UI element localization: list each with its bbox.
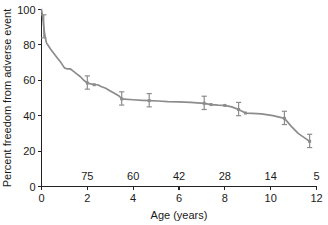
at-risk-counts-row: 75604228145 [81,170,319,182]
at-risk-count-4: 60 [127,170,139,182]
data-series-layer [42,10,310,142]
data-marker-4 [203,102,206,105]
data-marker-3 [148,99,151,102]
at-risk-count-10: 14 [265,170,277,182]
data-markers-layer [86,81,311,142]
x-axis-tick-labels: 024681012 [38,192,322,204]
x-tick-label-8: 8 [222,192,228,204]
y-axis-tick-labels: 020406080100 [17,4,35,193]
y-tick-label-80: 80 [23,39,35,51]
y-tick-label-0: 0 [29,181,35,193]
y-tick-label-60: 60 [23,74,35,86]
x-axis-title: Age (years) [151,209,208,221]
y-axis-title: Percent freedom from adverse event [1,9,13,188]
x-tick-label-12: 12 [310,192,322,204]
data-marker-2 [120,97,123,100]
data-marker-1 [93,83,96,86]
x-tick-label-4: 4 [130,192,136,204]
survival-curve-plot: 020406080100 024681012 75604228145 Age (… [0,0,328,225]
at-risk-count-2: 75 [81,170,93,182]
chart-figure: 020406080100 024681012 75604228145 Age (… [0,0,328,225]
x-tick-label-10: 10 [265,192,277,204]
data-marker-7 [237,108,240,111]
data-marker-6 [223,104,226,107]
axis-spines [42,10,317,187]
x-tick-label-2: 2 [84,192,90,204]
at-risk-count-6: 42 [173,170,185,182]
data-marker-8 [244,112,247,115]
data-marker-5 [210,103,213,106]
x-tick-label-6: 6 [176,192,182,204]
error-bars-layer [41,15,312,148]
data-marker-0 [86,81,89,84]
y-tick-label-40: 40 [23,110,35,122]
series-line-0 [42,10,310,142]
at-risk-count-12: 5 [313,170,319,182]
data-marker-10 [308,140,311,143]
y-tick-label-20: 20 [23,145,35,157]
y-tick-label-100: 100 [17,4,35,16]
x-tick-label-0: 0 [38,192,44,204]
at-risk-count-8: 28 [219,170,231,182]
data-marker-9 [283,117,286,120]
